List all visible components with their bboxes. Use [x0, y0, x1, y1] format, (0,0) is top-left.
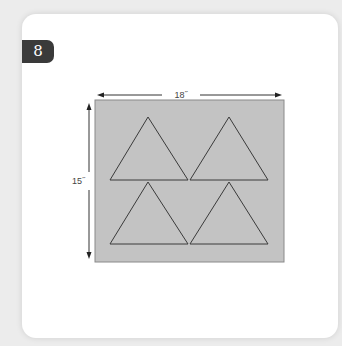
- height-dimension: 15˝: [72, 103, 92, 259]
- arrow-up-icon: [87, 103, 92, 110]
- width-dimension: 18˝: [97, 90, 282, 100]
- cutting-diagram: 18˝ 15˝: [0, 0, 342, 346]
- height-label: 15˝: [72, 176, 86, 186]
- fabric-rectangle: [95, 100, 284, 262]
- arrow-left-icon: [97, 93, 104, 98]
- arrow-down-icon: [87, 252, 92, 259]
- arrow-right-icon: [275, 93, 282, 98]
- width-label: 18˝: [174, 90, 188, 100]
